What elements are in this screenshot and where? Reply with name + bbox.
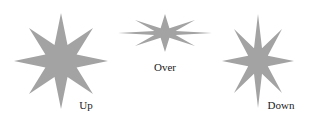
star-over-icon (118, 14, 212, 52)
label-up: Up (79, 99, 93, 111)
over-state-group: Over (118, 14, 212, 73)
down-state-group: Down (222, 14, 295, 111)
button-states-figure: Up Over Down (0, 0, 321, 120)
up-state-group: Up (14, 13, 108, 111)
label-down: Down (268, 99, 295, 111)
star-down-icon (222, 14, 294, 108)
label-over: Over (154, 61, 176, 73)
star-up-icon (14, 13, 108, 109)
